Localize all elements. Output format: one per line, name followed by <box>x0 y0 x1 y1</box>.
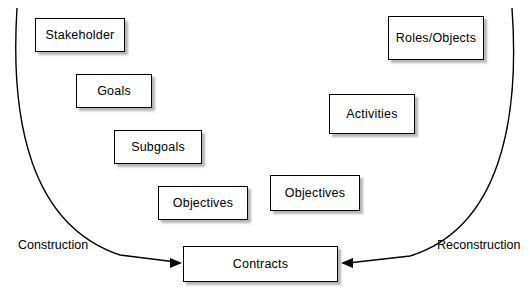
node-label: Subgoals <box>131 140 185 154</box>
node-stakeholder[interactable]: Stakeholder <box>35 18 125 52</box>
node-label: Contracts <box>233 257 288 271</box>
node-subgoals[interactable]: Subgoals <box>114 130 202 164</box>
node-label: Goals <box>97 84 131 98</box>
node-label: Objectives <box>285 186 345 200</box>
node-activities[interactable]: Activities <box>329 94 415 134</box>
construction-arrowhead <box>170 258 182 268</box>
construction-label: Construction <box>18 238 88 252</box>
diagram-canvas: Stakeholder Goals Subgoals Objectives Ob… <box>0 0 530 297</box>
node-contracts[interactable]: Contracts <box>183 246 338 282</box>
node-roles-objects[interactable]: Roles/Objects <box>388 16 484 60</box>
node-objectives-left[interactable]: Objectives <box>158 186 248 220</box>
node-objectives-right[interactable]: Objectives <box>270 175 360 211</box>
node-label: Activities <box>346 107 397 121</box>
reconstruction-label: Reconstruction <box>437 238 520 252</box>
node-label: Objectives <box>173 196 233 210</box>
node-label: Roles/Objects <box>396 31 476 45</box>
reconstruction-arrowhead <box>341 258 353 268</box>
node-label: Stakeholder <box>46 28 115 42</box>
node-goals[interactable]: Goals <box>76 74 152 108</box>
